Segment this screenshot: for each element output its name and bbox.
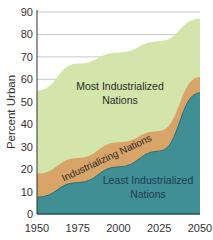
svg-text:Least Industrialized: Least Industrialized — [103, 174, 194, 186]
y-tick-label: 90 — [21, 6, 33, 18]
y-tick-label: 80 — [21, 28, 33, 40]
y-axis-label: Percent Urban — [5, 75, 17, 149]
x-tick-label: 1975 — [66, 222, 90, 234]
svg-text:Nations: Nations — [102, 94, 138, 106]
x-tick-label: 2000 — [106, 222, 130, 234]
urbanization-area-chart: 0102030405060708090 19501975200020252050… — [0, 0, 213, 240]
svg-text:Nations: Nations — [130, 188, 166, 200]
x-tick-label: 2025 — [147, 222, 171, 234]
x-tick-label: 1950 — [25, 222, 49, 234]
y-tick-label: 50 — [21, 96, 33, 108]
y-tick-label: 10 — [21, 186, 33, 198]
x-axis-ticks: 19501975200020252050 — [25, 222, 212, 234]
y-tick-label: 20 — [21, 163, 33, 175]
y-tick-label: 40 — [21, 118, 33, 130]
y-axis-ticks: 0102030405060708090 — [21, 6, 33, 220]
y-tick-label: 0 — [27, 208, 33, 220]
x-tick-label: 2050 — [188, 222, 212, 234]
y-tick-label: 60 — [21, 73, 33, 85]
y-tick-label: 30 — [21, 141, 33, 153]
svg-text:Most Industrialized: Most Industrialized — [76, 80, 164, 92]
y-tick-label: 70 — [21, 51, 33, 63]
